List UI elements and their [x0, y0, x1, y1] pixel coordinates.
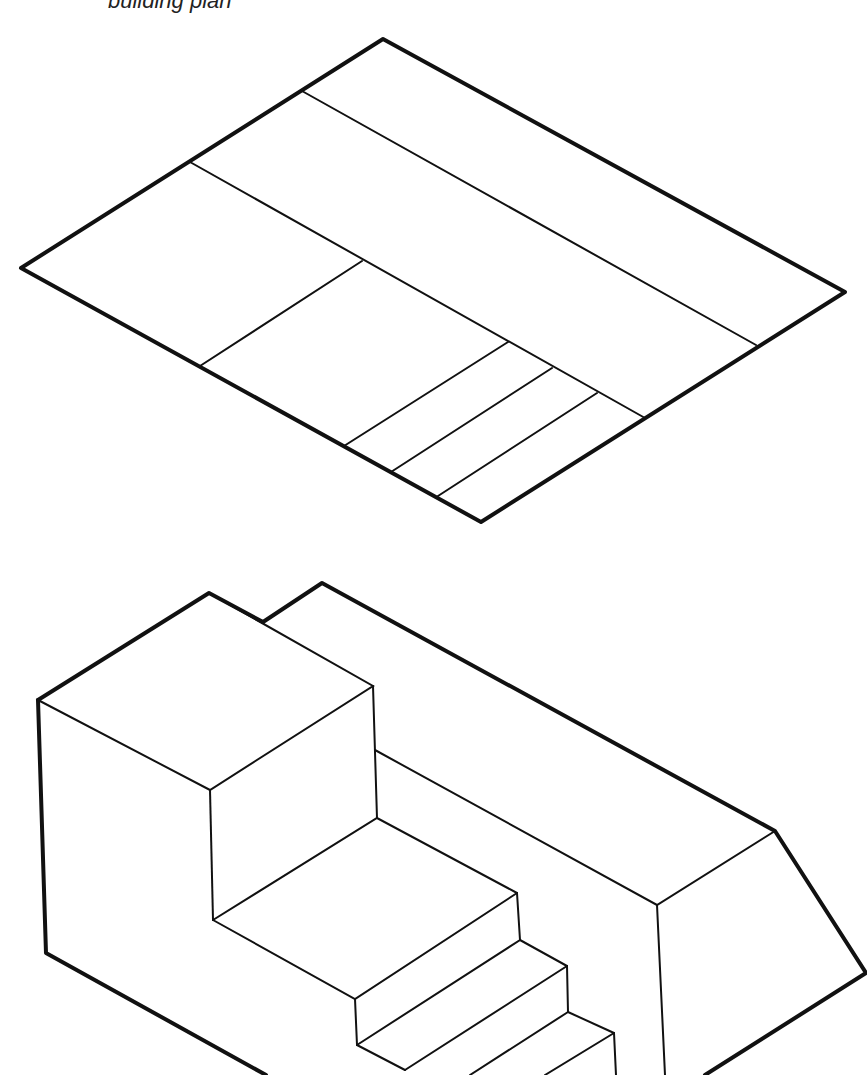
iso-outline-edge — [38, 700, 266, 1075]
iso-edge-line — [567, 966, 568, 1012]
iso-edge-line — [405, 966, 567, 1070]
iso-edge-line — [568, 1012, 614, 1033]
iso-edge-line — [213, 818, 517, 920]
iso-edge-line — [210, 790, 213, 920]
iso-outline-edge — [38, 593, 263, 700]
iso-edge-line — [375, 750, 775, 905]
isometric-view — [38, 583, 866, 1075]
iso-edge-line — [520, 940, 567, 966]
iso-edge-line — [357, 1045, 405, 1070]
iso-edge-line — [357, 893, 520, 1045]
plan-division-line — [391, 368, 552, 472]
iso-edge-line — [355, 999, 357, 1045]
plan-division-line — [200, 261, 362, 366]
iso-edge-line — [545, 1033, 614, 1075]
building-drawing — [0, 0, 867, 1075]
plan-division-line — [344, 342, 508, 446]
iso-edge-line — [213, 893, 517, 999]
plan-outline — [21, 39, 845, 522]
plan-division-line — [438, 393, 597, 496]
iso-edge-line — [470, 1012, 568, 1075]
plan-view — [21, 39, 845, 522]
iso-edge-line — [614, 1033, 616, 1075]
plan-division-line — [302, 91, 756, 345]
iso-outline-edge — [263, 583, 866, 1075]
iso-edge-line — [373, 686, 377, 818]
plan-division-line — [190, 162, 645, 418]
iso-edge-line — [38, 593, 373, 790]
iso-edge-line — [657, 905, 665, 1075]
